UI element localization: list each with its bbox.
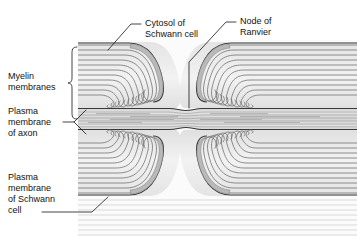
myelin-label-line1: Myelin (8, 71, 34, 81)
axon-membrane-label-line2: membrane (8, 117, 51, 127)
figure-canvas: Cytosol of Schwann cell Node of Ranvier … (0, 0, 357, 236)
schwann-membrane-label-line3: of Schwann (8, 194, 55, 204)
cytosol-label-line2: Schwann cell (145, 29, 198, 39)
schwann-membrane-label-line4: cell (8, 205, 22, 215)
myelin-sheath-bottom (78, 130, 357, 196)
label-node-of-ranvier: Node of Ranvier (240, 16, 272, 37)
myelin-sheath-top (78, 42, 357, 108)
cytosol-label-line1: Cytosol of (145, 18, 186, 28)
micrograph-panel (78, 40, 357, 236)
myelin-label-line2: membranes (8, 82, 56, 92)
axon-membrane-label-line3: of axon (8, 128, 38, 138)
node-label-line1: Node of (240, 16, 272, 26)
node-label-line2: Ranvier (240, 27, 271, 37)
axon-membrane-label-line1: Plasma (8, 106, 38, 116)
schwann-membrane-label-line1: Plasma (8, 172, 38, 182)
axon (78, 108, 357, 130)
node-of-ranvier-figure: Cytosol of Schwann cell Node of Ranvier … (0, 0, 357, 236)
schwann-membrane-label-line2: membrane (8, 183, 51, 193)
